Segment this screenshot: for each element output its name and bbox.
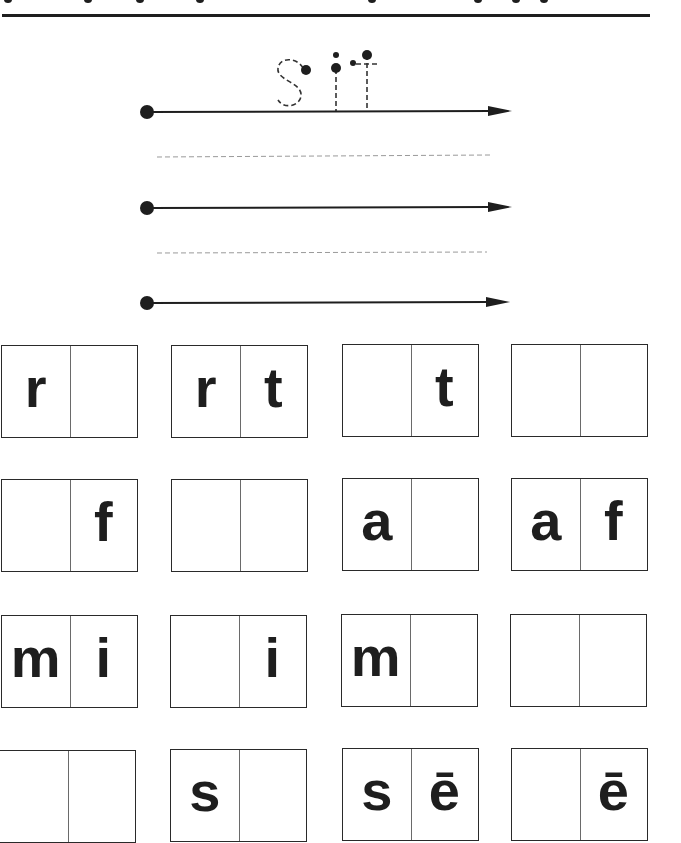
letter-box — [171, 479, 308, 572]
writing-line-2 — [140, 201, 512, 215]
letter-box-right — [580, 345, 648, 436]
letter-box-left: a — [343, 479, 412, 570]
letter: i — [264, 630, 280, 686]
letter-box-right — [411, 479, 479, 570]
letter-box-left — [512, 749, 581, 840]
handwriting-practice-area — [0, 0, 681, 320]
letter-box — [511, 344, 648, 437]
letter-box: t — [342, 344, 479, 437]
letter: a — [361, 493, 392, 549]
letter-box-right — [410, 615, 478, 706]
letter-box-left: a — [512, 479, 581, 570]
letter-box: m i — [1, 615, 138, 708]
letter-box: r — [1, 345, 138, 438]
letter-box: ē — [511, 748, 648, 841]
letter-box — [0, 750, 136, 843]
letter: m — [351, 629, 401, 685]
letter: f — [604, 493, 623, 549]
letter-box-right — [239, 750, 307, 841]
letter: ē — [598, 763, 629, 819]
letter: s — [361, 763, 392, 819]
letter-box-right: i — [239, 616, 307, 707]
letter-box-right — [70, 346, 138, 437]
letter-box-right: f — [580, 479, 648, 570]
letter-box-left — [511, 615, 580, 706]
letter: a — [530, 493, 561, 549]
letter: t — [435, 359, 454, 415]
letter-box-left — [172, 480, 241, 571]
letter: r — [195, 360, 217, 416]
trace-word-sit — [278, 55, 379, 111]
letter-box-left — [343, 345, 412, 436]
letter: i — [95, 630, 111, 686]
letter-box: f — [1, 479, 138, 572]
letter-box: s — [170, 749, 307, 842]
letter: r — [25, 360, 47, 416]
letter-box-right: t — [411, 345, 479, 436]
letter-box-left — [0, 751, 69, 842]
writing-line-3 — [140, 296, 510, 310]
letter-box-left: r — [172, 346, 241, 437]
letter-box: m — [341, 614, 478, 707]
midline-guide-2 — [157, 252, 487, 253]
letter-box-right — [240, 480, 308, 571]
letter-box-right: t — [240, 346, 308, 437]
letter-box-left: s — [171, 750, 240, 841]
letter-box-right: f — [70, 480, 138, 571]
letter-box-left: m — [342, 615, 411, 706]
letter-box-right: ē — [580, 749, 648, 840]
letter-box: i — [170, 615, 307, 708]
letter-box-left: s — [343, 749, 412, 840]
letter: f — [94, 494, 113, 550]
letter-box: a f — [511, 478, 648, 571]
trace-start-dots — [301, 50, 372, 75]
letter-box: r t — [171, 345, 308, 438]
midline-guide-1 — [157, 155, 490, 157]
letter: m — [11, 630, 61, 686]
letter-box-left — [512, 345, 581, 436]
letter-box: a — [342, 478, 479, 571]
letter: t — [264, 360, 283, 416]
letter-box — [510, 614, 647, 707]
letter-box-left — [2, 480, 71, 571]
letter-box-right — [579, 615, 647, 706]
letter-box-left: m — [2, 616, 71, 707]
letter-box-right: ē — [411, 749, 479, 840]
letter-box: s ē — [342, 748, 479, 841]
letter-box-right — [68, 751, 136, 842]
writing-line-1 — [140, 105, 512, 119]
letter-box-left — [171, 616, 240, 707]
letter: ē — [429, 763, 460, 819]
letter: s — [189, 764, 220, 820]
letter-box-left: r — [2, 346, 71, 437]
letter-box-right: i — [70, 616, 138, 707]
